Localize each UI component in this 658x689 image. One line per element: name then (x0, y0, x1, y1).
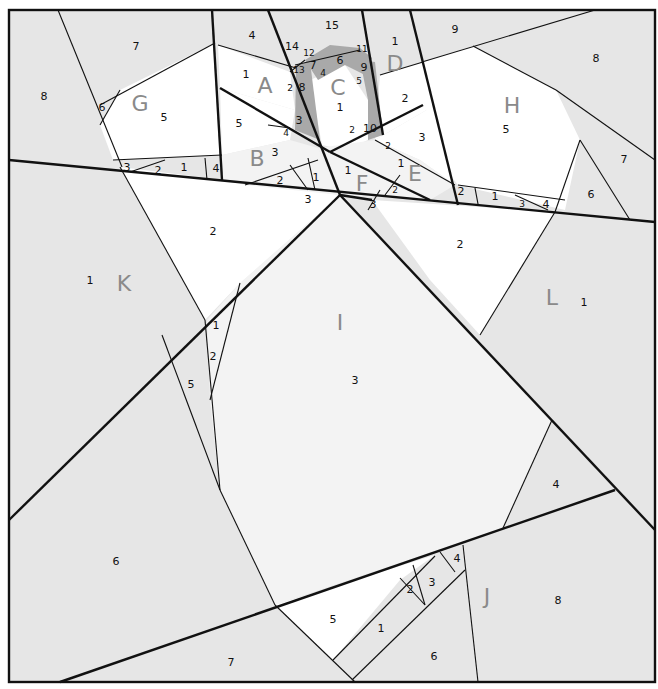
piece-C-1: 1 (337, 101, 344, 114)
piece-F-3: 3 (370, 198, 377, 211)
piece-I-5b: 5 (188, 378, 195, 391)
piece-J-5: 5 (330, 613, 337, 626)
piece-J-8: 8 (555, 594, 562, 607)
piece-G-1: 1 (181, 161, 188, 174)
section-label-B: B (249, 146, 264, 171)
piece-C-5: 5 (356, 76, 362, 86)
section-label-C: C (330, 75, 345, 100)
piece-H-9: 9 (452, 23, 459, 36)
piece-G-7: 7 (133, 40, 140, 53)
piece-H-2: 2 (458, 185, 465, 198)
piece-I-3: 3 (352, 374, 359, 387)
piece-C-8: 8 (299, 81, 306, 94)
piece-J-4: 4 (454, 552, 461, 565)
piece-C-13: 13 (293, 65, 304, 75)
section-label-G: G (131, 91, 148, 116)
section-label-J: J (482, 584, 491, 609)
piece-G-8: 8 (41, 90, 48, 103)
piece-C-10: 10 (363, 122, 377, 135)
piece-H-6: 6 (588, 188, 595, 201)
section-label-H: H (504, 93, 521, 118)
piece-J-3: 3 (429, 576, 436, 589)
piece-G-4: 4 (213, 162, 220, 175)
piece-C-2: 2 (349, 125, 355, 135)
paper-piecing-diagram: A B C D E F G H I J K L 7 8 6 5 3 2 1 4 … (0, 0, 658, 689)
piece-C-12: 12 (303, 48, 314, 58)
piece-F-1: 1 (345, 164, 352, 177)
piece-C-4: 4 (320, 68, 326, 78)
piece-A-2: 2 (287, 83, 293, 93)
piece-B-1: 1 (313, 171, 320, 184)
piece-L-2: 2 (457, 238, 464, 251)
piece-A-5: 5 (236, 117, 243, 130)
piece-E-3: 3 (419, 131, 426, 144)
piece-A-4: 4 (249, 29, 256, 42)
piece-L-1: 1 (581, 296, 588, 309)
piece-J-1: 1 (378, 622, 385, 635)
piece-C-14: 14 (285, 40, 299, 53)
piece-I-2: 2 (210, 350, 217, 363)
piece-I-6: 6 (113, 555, 120, 568)
section-label-D: D (387, 51, 404, 76)
piece-A-4b: 4 (283, 128, 289, 138)
piece-H-7: 7 (621, 153, 628, 166)
piece-I-1: 1 (213, 319, 220, 332)
piece-G-6: 6 (99, 101, 106, 114)
piece-G-5: 5 (161, 111, 168, 124)
piece-F-2: 2 (392, 185, 398, 195)
piece-A-1: 1 (243, 68, 250, 81)
piece-C-6: 6 (337, 54, 344, 67)
section-label-L: L (546, 285, 559, 310)
piece-K-2: 2 (210, 225, 217, 238)
piece-C-3: 3 (296, 114, 303, 127)
piece-C-7: 7 (310, 59, 317, 72)
piece-B-4: 3 (305, 193, 312, 206)
piece-D-2: 2 (402, 92, 409, 105)
piece-E-2: 2 (385, 141, 391, 151)
section-label-I: I (337, 310, 344, 335)
piece-I-4: 4 (553, 478, 560, 491)
piece-D-1: 1 (392, 35, 399, 48)
section-label-E: E (408, 161, 422, 186)
piece-C-9: 9 (361, 61, 368, 74)
piece-C-15: 15 (325, 19, 339, 32)
piece-H-4: 4 (543, 198, 550, 211)
piece-J-6: 6 (431, 650, 438, 663)
piece-C-11: 11 (356, 44, 367, 54)
piece-H-3: 3 (519, 199, 525, 209)
section-label-K: K (117, 271, 132, 296)
piece-K-1: 1 (87, 274, 94, 287)
section-label-A: A (257, 73, 272, 98)
piece-E-1: 1 (398, 157, 405, 170)
piece-G-3: 3 (124, 161, 131, 174)
piece-H-5: 5 (503, 123, 510, 136)
piece-H-8: 8 (593, 52, 600, 65)
piece-J-2: 2 (407, 583, 414, 596)
piece-G-2: 2 (155, 164, 162, 177)
section-label-F: F (356, 171, 369, 196)
piece-H-1: 1 (492, 190, 499, 203)
piece-B-2: 2 (277, 174, 284, 187)
piece-B-3: 3 (272, 146, 279, 159)
piece-I-7: 7 (228, 656, 235, 669)
